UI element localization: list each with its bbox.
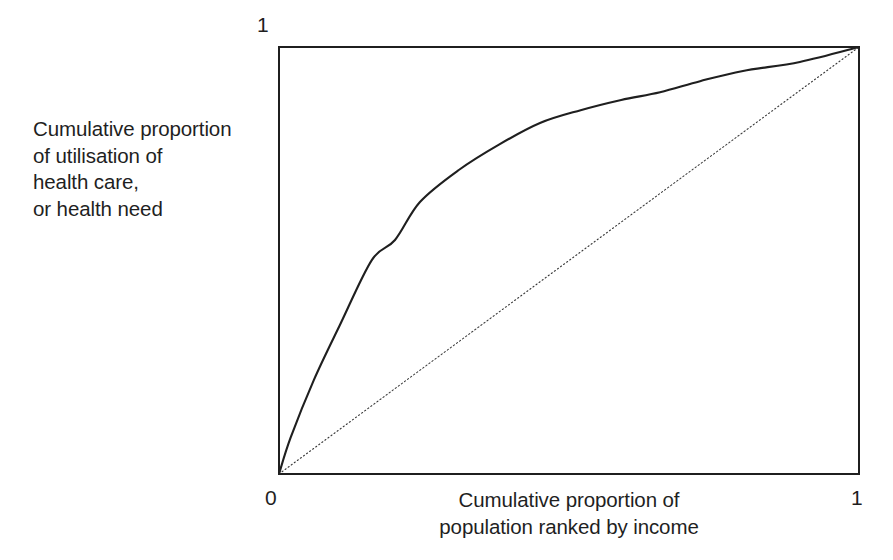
concentration-curve-figure: Cumulative proportion of utilisation of … bbox=[0, 0, 893, 560]
plot-svg bbox=[0, 0, 893, 560]
plot-area bbox=[0, 0, 893, 560]
